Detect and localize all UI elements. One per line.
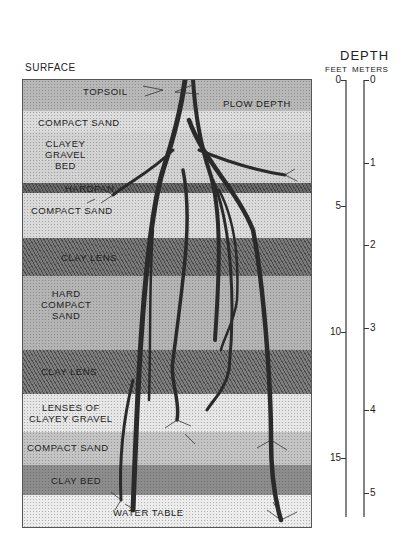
soil-profile: PLOW DEPTH TOPSOILCOMPACT SANDCLAYEY GRA… xyxy=(22,79,312,528)
layer-label-compact-sand-1: COMPACT SAND xyxy=(38,117,120,128)
feet-tick-mark xyxy=(341,332,346,333)
meters-tick-2: 2 xyxy=(370,239,376,250)
plow-depth-annotation: PLOW DEPTH xyxy=(223,98,291,109)
meters-tick-3: 3 xyxy=(370,322,376,333)
meters-tick-5: 5 xyxy=(370,487,376,498)
depth-scale-title: DEPTH xyxy=(340,48,389,63)
layer-label-hard-compact-sand: HARD COMPACT SAND xyxy=(41,288,91,321)
layer-label-clay-bed: CLAY BED xyxy=(51,475,101,486)
meters-tick-1: 1 xyxy=(370,157,376,168)
meters-tick-4: 4 xyxy=(370,404,376,415)
meters-tick-mark xyxy=(364,410,369,411)
layer-label-clay-lens-1: CLAY LENS xyxy=(61,252,117,263)
surface-label: SURFACE xyxy=(25,62,76,73)
layer-label-lenses-of-clayey-gravel: LENSES OF CLAYEY GRAVEL xyxy=(29,402,113,424)
feet-tick-15: 15 xyxy=(330,452,341,463)
feet-tick-mark xyxy=(341,458,346,459)
feet-tick-mark xyxy=(341,80,346,81)
layer-label-compact-sand-3: COMPACT SAND xyxy=(27,442,109,453)
layer-label-clay-lens-2: CLAY LENS xyxy=(41,366,97,377)
meters-tick-0: 0 xyxy=(370,74,376,85)
feet-label: FEET xyxy=(325,65,347,74)
layer-label-water-table: WATER TABLE xyxy=(113,507,184,518)
meters-label: METERS xyxy=(352,65,388,74)
layer-label-compact-sand-2: COMPACT SAND xyxy=(31,205,113,216)
layer-label-hardpan: HARDPAN xyxy=(65,183,114,194)
meters-tick-mark xyxy=(364,493,369,494)
meters-tick-mark xyxy=(364,80,369,81)
layer-label-clayey-gravel-bed: CLAYEY GRAVEL BED xyxy=(45,138,86,171)
feet-tick-10: 10 xyxy=(330,326,341,337)
feet-tick-mark xyxy=(341,206,346,207)
meters-tick-mark xyxy=(364,245,369,246)
meters-tick-mark xyxy=(364,328,369,329)
layer-label-topsoil: TOPSOIL xyxy=(83,86,128,97)
meters-tick-mark xyxy=(364,163,369,164)
